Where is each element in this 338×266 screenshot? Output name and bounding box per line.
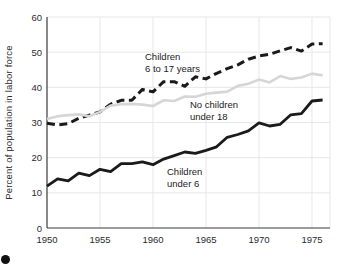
x-tick-label: 1975 — [301, 234, 322, 245]
series-label-line: Children — [145, 51, 200, 63]
series-label-children-under-6: Children under 6 — [167, 166, 202, 190]
y-tick-label: 30 — [31, 117, 42, 128]
y-tick-label: 50 — [31, 47, 42, 58]
series-label-line: Children — [167, 166, 202, 178]
series-label-line: under 6 — [167, 178, 202, 190]
series-label-line: No children — [190, 99, 238, 111]
series-label-line: 6 to 17 years — [145, 63, 200, 75]
series-line-no-children-under-18 — [47, 74, 323, 119]
y-tick-label: 60 — [31, 12, 42, 23]
x-tick-label: 1965 — [195, 234, 216, 245]
x-tick-label: 1970 — [248, 234, 269, 245]
y-axis-title: Percent of population in labor force — [3, 17, 17, 228]
figure-bullet-marker — [1, 255, 10, 264]
chart-figure: 0102030405060195019551960196519701975 Pe… — [0, 0, 338, 266]
x-tick-label: 1960 — [142, 234, 163, 245]
y-tick-label: 20 — [31, 152, 42, 163]
y-tick-label: 10 — [31, 187, 42, 198]
x-tick-label: 1955 — [89, 234, 110, 245]
series-label-children-6-to-17: Children 6 to 17 years — [145, 51, 200, 75]
series-label-line: under 18 — [190, 111, 238, 123]
y-tick-label: 0 — [37, 223, 42, 234]
series-label-no-children-under-18: No children under 18 — [190, 99, 238, 123]
line-chart-canvas: 0102030405060195019551960196519701975 — [0, 0, 338, 266]
x-tick-label: 1950 — [36, 234, 57, 245]
y-tick-label: 40 — [31, 82, 42, 93]
